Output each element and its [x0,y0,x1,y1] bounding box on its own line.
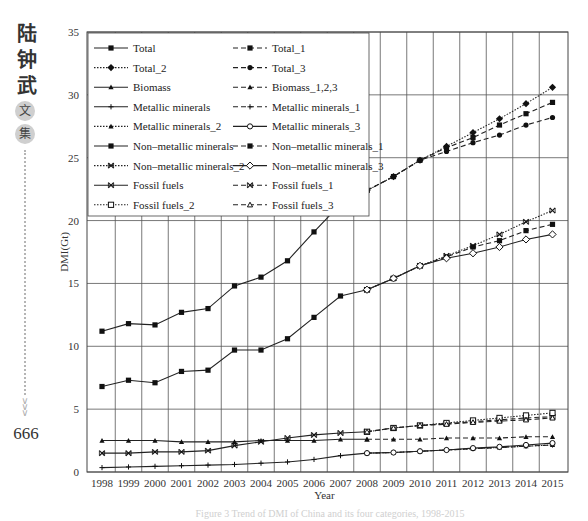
x-tick-label: 2011 [436,477,458,489]
legend-label: Biomass_1,2,3 [272,81,338,93]
legend-label: Total [133,42,155,54]
x-tick-label: 2005 [277,477,300,489]
x-tick-label: 2002 [197,477,219,489]
legend-label: Fossil fuels_2 [133,199,194,211]
x-tick-label: 2015 [542,477,565,489]
x-tick-label: 2003 [224,477,247,489]
x-tick-label: 2001 [171,477,193,489]
y-tick-label: 25 [68,152,80,164]
legend-label: Metallic minerals [133,101,210,113]
x-tick-label: 2014 [515,477,538,489]
legend: TotalTotal_1Total_2Total_3BiomassBiomass… [88,33,384,216]
legend-label: Total_2 [133,62,166,74]
y-tick-label: 5 [74,403,80,415]
legend-label: Fossil fuels_3 [272,199,334,211]
legend-label: Fossil fuels_1 [272,179,333,191]
x-tick-label: 2013 [489,477,512,489]
dmi-line-chart: 0510152025303519981999200020012002200320… [0,0,588,521]
x-tick-label: 2008 [356,477,379,489]
legend-label: Metallic minerals_2 [133,120,221,132]
legend-label: Non–metallic minerals_1 [272,140,384,152]
legend-label: Metallic minerals_1 [272,101,360,113]
y-tick-label: 0 [74,466,80,478]
x-tick-label: 2009 [383,477,406,489]
figure-caption: Figure 3 Trend of DMI of China and its f… [90,508,570,519]
legend-label: Metallic minerals_3 [272,120,361,132]
legend-label: Fossil fuels [133,179,183,191]
series-non-metallic-minerals [99,287,369,389]
x-tick-label: 1998 [91,477,114,489]
y-axis-label: DMI(Gt) [58,232,71,272]
legend-label: Non–metallic minerals [133,140,234,152]
y-tick-label: 20 [68,215,80,227]
y-tick-label: 35 [68,26,80,38]
x-tick-label: 1999 [118,477,141,489]
legend-label: Non–metallic minerals_2 [133,160,245,172]
legend-label: Total_1 [272,42,305,54]
legend-label: Biomass [133,81,171,93]
x-tick-label: 2000 [144,477,167,489]
x-tick-label: 2010 [409,477,432,489]
series-biomass [99,437,369,444]
series-metallic-minerals [99,451,369,471]
y-tick-label: 30 [68,89,80,101]
y-tick-label: 15 [68,277,80,289]
x-tick-label: 2004 [250,477,273,489]
x-axis-label: Year [314,489,335,501]
x-tick-label: 2006 [303,477,326,489]
legend-label: Total_3 [272,62,306,74]
x-tick-label: 2012 [462,477,484,489]
x-tick-label: 2007 [330,477,353,489]
legend-label: Non–metallic minerals_3 [272,160,384,172]
y-tick-label: 10 [68,340,80,352]
